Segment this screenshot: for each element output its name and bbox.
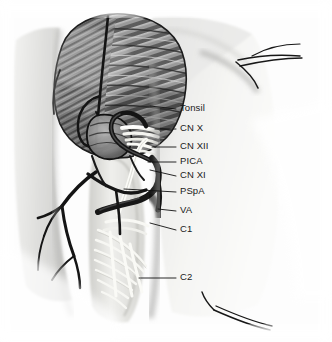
illustration-canvas: TonsilCN XCN XIIPICACN XIPSpAVAC1C2	[0, 0, 332, 342]
label-c1: C1	[180, 223, 192, 234]
label-pspa: PSpA	[180, 185, 205, 196]
label-cn12: CN XII	[180, 140, 209, 151]
label-cn11: CN XI	[180, 169, 206, 180]
label-tonsil: Tonsil	[180, 102, 205, 113]
label-cn10: CN X	[180, 122, 204, 133]
label-pica: PICA	[180, 155, 203, 166]
anatomical-illustration: TonsilCN XCN XIIPICACN XIPSpAVAC1C2	[0, 0, 332, 342]
label-c2: C2	[180, 271, 192, 282]
label-va: VA	[180, 204, 193, 215]
